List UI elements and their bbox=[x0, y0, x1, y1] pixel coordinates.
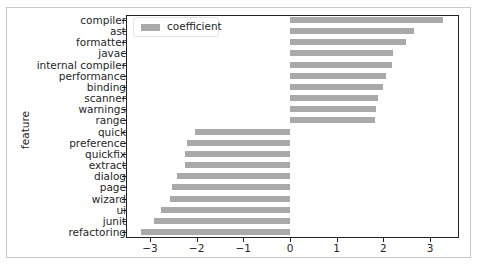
bar-preference bbox=[187, 140, 290, 146]
y-tick-mark bbox=[122, 154, 126, 155]
y-tick-label: refactoring bbox=[68, 226, 126, 238]
bar-performance bbox=[290, 73, 386, 79]
y-tick-mark bbox=[122, 87, 126, 88]
y-axis-label: feature bbox=[19, 111, 31, 149]
bar-refactoring bbox=[141, 229, 290, 235]
y-tick-mark bbox=[122, 65, 126, 66]
y-tick-mark bbox=[122, 176, 126, 177]
x-tick-label: 1 bbox=[322, 242, 352, 254]
y-tick-mark bbox=[122, 210, 126, 211]
legend-swatch bbox=[141, 24, 160, 31]
bar-quickfix bbox=[185, 151, 290, 157]
y-tick-mark bbox=[122, 98, 126, 99]
bar-scanner bbox=[290, 95, 378, 101]
bar-ui bbox=[161, 207, 290, 213]
bar-formatter bbox=[290, 39, 406, 45]
y-tick-mark bbox=[122, 53, 126, 54]
y-tick-mark bbox=[122, 187, 126, 188]
x-tick-label: −2 bbox=[182, 242, 212, 254]
y-tick-mark bbox=[122, 120, 126, 121]
bar-extract bbox=[185, 162, 290, 168]
bar-wizard bbox=[170, 196, 290, 202]
x-tick-label: −1 bbox=[228, 242, 258, 254]
bar-compiler bbox=[290, 17, 443, 23]
y-tick-mark bbox=[122, 132, 126, 133]
bar-ast bbox=[290, 28, 414, 34]
plot-area bbox=[126, 15, 459, 238]
bar-binding bbox=[290, 84, 383, 90]
x-tick-label: 3 bbox=[415, 242, 445, 254]
legend: coefficient bbox=[133, 17, 219, 37]
y-tick-mark bbox=[122, 165, 126, 166]
bar-dialog bbox=[177, 173, 290, 179]
y-tick-mark bbox=[122, 42, 126, 43]
y-tick-mark bbox=[122, 199, 126, 200]
bar-internal-compiler bbox=[290, 62, 392, 68]
y-tick-mark bbox=[122, 143, 126, 144]
bar-page bbox=[172, 184, 290, 190]
x-tick-label: 2 bbox=[368, 242, 398, 254]
bar-range bbox=[290, 117, 375, 123]
y-tick-mark bbox=[122, 221, 126, 222]
y-tick-mark bbox=[122, 20, 126, 21]
bar-junit bbox=[154, 218, 290, 224]
bar-javac bbox=[290, 50, 393, 56]
x-tick-label: 0 bbox=[275, 242, 305, 254]
legend-label: coefficient bbox=[167, 20, 222, 32]
y-tick-mark bbox=[122, 31, 126, 32]
y-tick-mark bbox=[122, 232, 126, 233]
bar-warnings bbox=[290, 106, 376, 112]
bar-quick bbox=[195, 129, 290, 135]
x-tick-label: −3 bbox=[135, 242, 165, 254]
y-tick-mark bbox=[122, 76, 126, 77]
y-tick-mark bbox=[122, 109, 126, 110]
